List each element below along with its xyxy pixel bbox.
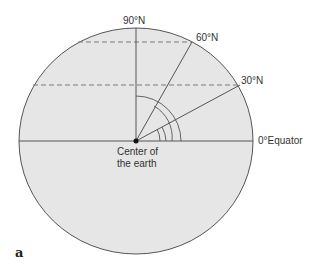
label-90n: 90°N [123,15,145,26]
label-30n: 30°N [241,75,263,86]
center-point [134,139,139,144]
label-equator: 0°Equator [258,135,303,146]
latitude-diagram: 90°N 60°N 30°N 0°Equator Center of the e… [0,0,321,266]
label-center-line1: Center of [117,146,158,157]
label-60n: 60°N [196,32,218,43]
label-center-line2: the earth [117,158,156,169]
panel-letter: a [15,245,24,260]
